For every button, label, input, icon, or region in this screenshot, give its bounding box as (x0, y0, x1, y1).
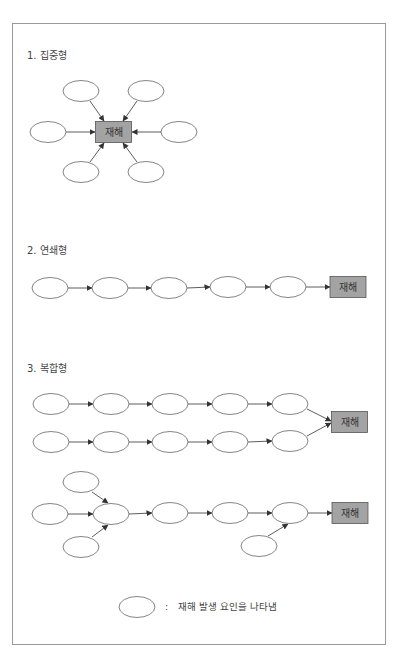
disaster-label: 재해 (341, 416, 359, 428)
factor-node-m-4 (212, 503, 248, 524)
arrow-4 (90, 143, 104, 162)
arrow-21 (92, 492, 108, 503)
arrow-15 (307, 409, 331, 421)
factor-node-b-3 (152, 432, 188, 453)
factor-node-b-4 (212, 432, 248, 453)
factor-node-m-top (63, 472, 99, 493)
ellipses-layer (30, 81, 308, 618)
arrow-24 (129, 513, 152, 514)
factor-node-c-bottom-left (63, 162, 99, 183)
factor-node-m-3 (152, 503, 188, 524)
section-heading-concentrated: 1. 집중형 (27, 50, 67, 62)
factor-node-a-5 (272, 394, 308, 415)
disaster-node-box-concentrated: 재해 (96, 122, 132, 143)
factor-node-ch-3 (151, 278, 187, 299)
factor-node-b-5 (272, 431, 308, 452)
factor-node-a-1 (33, 394, 69, 415)
diagram-canvas: 재해재해재해재해 (0, 0, 396, 654)
arrow-23 (92, 525, 108, 537)
legend-text: 재해 발생 요인을 나타냄 (178, 601, 277, 612)
factor-node-c-top-right (128, 81, 164, 102)
factor-node-a-3 (152, 394, 188, 415)
factor-node-a-4 (212, 394, 248, 415)
factor-node-c-left (30, 122, 66, 143)
disaster-label: 재해 (341, 507, 359, 519)
factor-node-m-5-bottom (241, 536, 277, 557)
section-heading-chain: 2. 연쇄형 (27, 245, 67, 257)
factor-node-m-hub (93, 504, 129, 525)
factor-node-m-5 (272, 503, 308, 524)
arrow-20 (307, 423, 331, 436)
factor-node-b-2 (93, 432, 129, 453)
arrows-layer (66, 101, 332, 537)
arrow-5 (123, 143, 137, 162)
factor-node-m-left (32, 504, 68, 525)
section-heading-compound: 3. 복합형 (27, 363, 67, 375)
arrow-0 (90, 101, 104, 121)
disaster-label: 재해 (339, 281, 357, 293)
disaster-node-box-compound-2: 재해 (332, 503, 368, 524)
factor-node-ch-2 (92, 278, 128, 299)
legend: : 재해 발생 요인을 나타냄 (165, 600, 277, 614)
boxes-layer: 재해재해재해재해 (96, 122, 369, 524)
factor-node-c-bottom-right (128, 162, 164, 183)
disaster-node-box-chain: 재해 (330, 277, 366, 298)
factor-node-ch-1 (32, 278, 68, 299)
arrow-1 (123, 101, 137, 121)
factor-node-ch-5 (270, 277, 306, 298)
legend-colon: : (165, 601, 168, 612)
arrow-8 (187, 287, 210, 288)
factor-node-b-1 (33, 432, 69, 453)
arrow-27 (268, 524, 288, 536)
factor-node-c-top-left (63, 81, 99, 102)
factor-node-m-bottom (63, 537, 99, 558)
factor-node-ch-4 (210, 277, 246, 298)
disaster-label: 재해 (105, 126, 123, 138)
arrow-19 (248, 441, 272, 442)
factor-node-a-2 (93, 394, 129, 415)
factor-node-legend-ellipse (119, 597, 155, 618)
factor-node-c-right (161, 122, 197, 143)
disaster-node-box-compound-1: 재해 (332, 412, 368, 433)
